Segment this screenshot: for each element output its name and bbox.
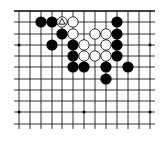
- white-stone[interactable]: [79, 51, 89, 61]
- go-board[interactable]: [0, 0, 167, 141]
- black-stone[interactable]: [46, 16, 57, 27]
- black-stone[interactable]: [35, 16, 46, 27]
- star-point: [148, 43, 151, 46]
- star-point: [17, 43, 20, 46]
- black-stone[interactable]: [56, 28, 67, 39]
- white-stone[interactable]: [68, 29, 78, 39]
- black-stone[interactable]: [100, 61, 111, 72]
- star-point: [82, 110, 85, 113]
- black-stone[interactable]: [46, 39, 57, 50]
- black-stone[interactable]: [122, 61, 133, 72]
- black-stone[interactable]: [111, 39, 122, 50]
- white-stone[interactable]: [90, 29, 100, 39]
- black-stone[interactable]: [111, 28, 122, 39]
- black-stone[interactable]: [67, 61, 78, 72]
- stones-layer[interactable]: [35, 16, 133, 84]
- black-stone[interactable]: [111, 16, 122, 27]
- white-stone[interactable]: [101, 40, 111, 50]
- black-stone[interactable]: [67, 50, 78, 61]
- white-stone[interactable]: [101, 51, 111, 61]
- star-point: [148, 110, 151, 113]
- white-stone[interactable]: [68, 17, 78, 27]
- black-stone[interactable]: [78, 61, 89, 72]
- black-stone[interactable]: [100, 73, 111, 84]
- black-stone[interactable]: [67, 39, 78, 50]
- black-stone[interactable]: [111, 50, 122, 61]
- star-point: [17, 110, 20, 113]
- white-stone[interactable]: [90, 51, 100, 61]
- white-stone[interactable]: [79, 40, 89, 50]
- go-board-canvas[interactable]: [0, 0, 167, 141]
- white-stone[interactable]: [101, 29, 111, 39]
